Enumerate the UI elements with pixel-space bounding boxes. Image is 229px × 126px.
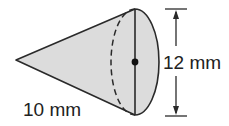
base-center-point (132, 59, 139, 66)
slant-height-label: 10 mm (23, 100, 81, 119)
cone-diagram: 12 mm 10 mm (0, 0, 229, 126)
diameter-label: 12 mm (163, 53, 221, 72)
